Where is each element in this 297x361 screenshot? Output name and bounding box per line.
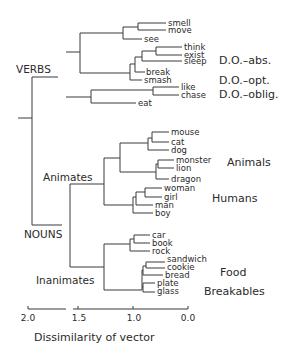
node-label-nouns: NOUNS: [24, 228, 63, 240]
x-axis: 2.0 1.5 1.0 0.0 Dissimilarity of vector: [21, 306, 196, 344]
group-label-humans: Humans: [212, 192, 258, 205]
leaf-mouse: mouse: [171, 127, 200, 137]
dendrogram-chart: smell move see think exist sleep break s…: [0, 0, 297, 361]
x-tick-1-5: 1.5: [72, 313, 86, 323]
leaf-lion: lion: [176, 163, 191, 173]
group-label-do-oblig: D.O.–oblig.: [219, 88, 278, 101]
x-axis-title: Dissimilarity of vector: [34, 331, 155, 344]
leaf-glass: glass: [157, 286, 179, 296]
group-label-animals: Animals: [227, 156, 271, 169]
leaf-smash: smash: [144, 75, 172, 85]
node-label-verbs: VERBS: [16, 63, 51, 75]
x-tick-1-0: 1.0: [127, 313, 142, 323]
group-label-breakables: Breakables: [204, 285, 265, 298]
x-tick-2-0: 2.0: [21, 313, 36, 323]
group-label-food: Food: [220, 266, 246, 279]
leaf-dog: dog: [171, 145, 187, 155]
leaf-eat: eat: [138, 98, 152, 108]
leaf-move: move: [168, 25, 192, 35]
node-labels: VERBS NOUNS Animates Inanimates: [16, 63, 94, 286]
leaf-labels: smell move see think exist sleep break s…: [138, 18, 212, 296]
node-label-animates: Animates: [43, 171, 92, 183]
node-label-inanimates: Inanimates: [36, 274, 94, 286]
group-label-do-abs: D.O.–abs.: [219, 54, 271, 67]
leaf-sleep: sleep: [184, 56, 207, 66]
group-label-do-opt: D.O.–opt.: [219, 74, 270, 87]
leaf-see: see: [144, 34, 159, 44]
leaf-chase: chase: [181, 90, 206, 100]
group-labels: D.O.–abs. D.O.–opt. D.O.–oblig. Animals …: [204, 54, 278, 298]
x-tick-0-0: 0.0: [181, 313, 196, 323]
leaf-boy: boy: [155, 208, 171, 218]
